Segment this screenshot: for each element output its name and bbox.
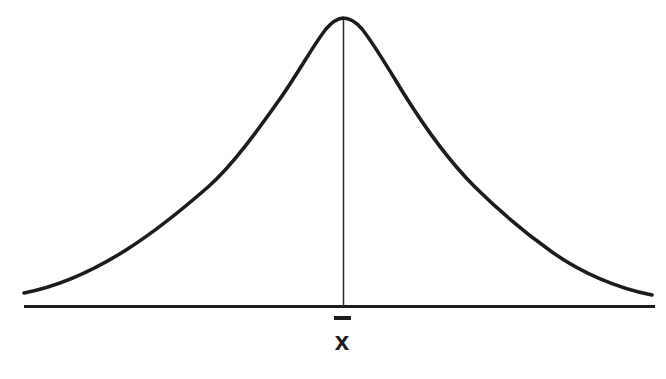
mean-symbol-text: x bbox=[312, 328, 372, 354]
mean-overbar-icon bbox=[334, 316, 351, 320]
mean-axis-label: x bbox=[312, 316, 372, 354]
normal-distribution-figure: x bbox=[0, 0, 666, 379]
normal-density-curve bbox=[24, 18, 652, 295]
